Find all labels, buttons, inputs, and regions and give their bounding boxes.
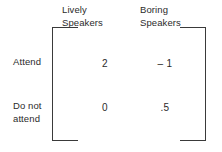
- column-header-lively-speakers: Lively Speakers: [62, 4, 103, 29]
- matrix-cell-attend-lively: 2: [88, 57, 122, 70]
- matrix-right-bracket: [180, 27, 206, 141]
- row-label-do-not-attend: Do not attend: [13, 100, 42, 125]
- row-label-attend: Attend: [13, 56, 41, 69]
- matrix-cell-attend-boring: – 1: [148, 57, 182, 70]
- matrix-cell-donotattend-boring: .5: [148, 101, 182, 114]
- matrix-cell-donotattend-lively: 0: [88, 101, 122, 114]
- payoff-matrix-figure: Lively Speakers Boring Speakers Attend D…: [0, 0, 222, 152]
- matrix-left-bracket: [52, 27, 78, 141]
- column-header-boring-speakers: Boring Speakers: [140, 4, 181, 29]
